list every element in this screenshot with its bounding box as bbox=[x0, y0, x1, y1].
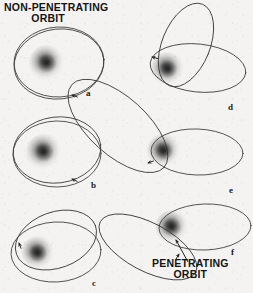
orbit-diagram-canvas bbox=[0, 0, 253, 293]
nucleus-core bbox=[29, 244, 48, 263]
orbit-panel-c bbox=[7, 199, 105, 284]
panels-layer bbox=[7, 0, 252, 293]
nucleus-core bbox=[159, 60, 178, 79]
panel-label-b: b bbox=[91, 180, 96, 190]
non-penetrating-title-line2: ORBIT bbox=[4, 13, 108, 24]
panel-label-e: e bbox=[229, 185, 233, 195]
panel-label-d: d bbox=[228, 102, 233, 112]
orbit-panel-d bbox=[147, 0, 248, 97]
orbit-direction-arrow-c-1 bbox=[19, 243, 21, 249]
orbit-panel-b bbox=[9, 112, 104, 188]
orbit-panel-a bbox=[11, 24, 108, 103]
penetrating-title-line2: ORBIT bbox=[152, 269, 229, 280]
nucleus-core bbox=[34, 142, 54, 162]
nucleus-core bbox=[155, 142, 174, 161]
panel-label-f: f bbox=[231, 247, 234, 257]
penetrating-orbit-title: PENETRATING ORBIT bbox=[152, 258, 229, 280]
nucleus-core bbox=[163, 218, 182, 237]
orbit-path-c-1 bbox=[7, 199, 105, 280]
orbit-diagram-figure: NON-PENETRATING ORBIT PENETRATING ORBIT … bbox=[0, 0, 253, 293]
panel-label-a: a bbox=[86, 88, 91, 98]
non-penetrating-orbit-title: NON-PENETRATING ORBIT bbox=[4, 2, 108, 24]
panel-label-c: c bbox=[92, 278, 96, 288]
nucleus-core bbox=[37, 53, 57, 73]
